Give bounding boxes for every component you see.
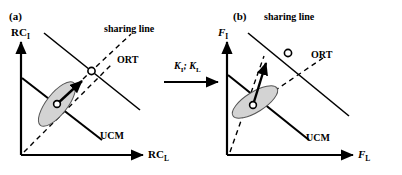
panel-b: (b) FI FL sharing line ORT UCM [201,0,402,175]
y-axis-label-a: RCI [11,27,30,41]
x-axis-sub-a: L [164,154,169,163]
x-axis-base-a: RC [148,148,164,160]
sharing-line-label-b: sharing line [264,12,314,22]
y-axis-sub-a: I [27,32,30,41]
x-axis-sub-b: L [365,154,370,163]
x-axis-label-b: FL [358,149,370,163]
sharing-line-label-a: sharing line [104,24,154,34]
ucm-label-b: UCM [306,133,330,143]
ucm-label-a: UCM [100,131,124,141]
target-marker-b [284,49,291,56]
figure-root: (a) RCI RCL sharing line ORT UCM KI; KL [0,0,402,175]
ort-label-a: ORT [117,55,138,65]
ort-label-b: ORT [311,50,332,60]
target-marker-a [88,67,95,74]
panel-tag-b: (b) [233,11,246,22]
panel-b-graphic [201,0,402,175]
x-axis-label-a: RCL [148,149,169,163]
y-axis-label-b: FI [218,27,228,41]
y-axis-sub-b: I [225,32,228,41]
mean-marker-a [54,101,61,108]
mean-marker-b [250,102,257,109]
y-axis-base-a: RC [11,26,27,38]
panel-tag-a: (a) [9,11,22,22]
